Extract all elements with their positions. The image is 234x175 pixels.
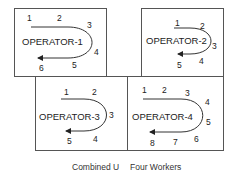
station-number: 6 [194, 135, 199, 144]
station-number: 4 [205, 98, 210, 107]
station-number: 1 [142, 86, 147, 95]
operator-label: OPERATOR-4 [132, 111, 193, 122]
caption-left: Combined U [72, 162, 119, 172]
station-number: 5 [206, 118, 211, 127]
u-flow-arrow-4 [0, 0, 234, 175]
station-number: 7 [173, 138, 178, 147]
caption-right: Four Workers [130, 162, 181, 172]
station-number: 3 [185, 89, 190, 98]
station-number: 2 [162, 86, 167, 95]
station-number: 8 [150, 139, 155, 148]
